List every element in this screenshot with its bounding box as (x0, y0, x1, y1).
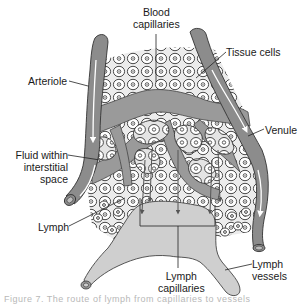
figure-caption: Figure 7. The route of lymph from capill… (4, 294, 250, 304)
label-lymph: Lymph (38, 221, 69, 233)
label-arteriole: Arteriole (28, 75, 67, 87)
label-line: space (6, 173, 68, 185)
label-lymph-capillaries: Lymph capillaries (158, 270, 205, 294)
label-line: capillaries (158, 282, 205, 294)
label-line: Lymph (252, 258, 287, 270)
label-blood-capillaries: Blood capillaries (133, 6, 180, 30)
label-line: Fluid within (6, 149, 68, 161)
label-line: capillaries (133, 18, 180, 30)
label-lymph-vessels: Lymph vessels (252, 258, 287, 282)
label-tissue-cells: Tissue cells (226, 46, 280, 58)
label-line: vessels (252, 270, 287, 282)
label-line: Blood (133, 6, 180, 18)
label-venule: Venule (265, 124, 297, 136)
label-line: interstitial (6, 161, 68, 173)
label-line: Lymph (158, 270, 205, 282)
label-fluid-interstitial: Fluid within interstitial space (6, 149, 68, 185)
